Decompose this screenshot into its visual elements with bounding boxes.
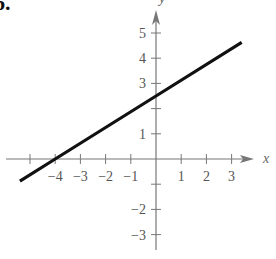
y-axis-label: y [157, 0, 166, 6]
y-tick-label: −2 [131, 202, 146, 217]
x-tick-label: 1 [178, 169, 185, 184]
x-tick-label: 3 [228, 169, 235, 184]
y-tick-label: 3 [139, 76, 146, 91]
y-tick-label: −3 [131, 228, 146, 243]
y-tick-label: 5 [139, 26, 146, 41]
y-tick-label: 1 [139, 127, 146, 142]
x-axis-label: x [262, 151, 270, 166]
x-tick-label: 2 [203, 169, 210, 184]
tick-labels: −4−3−2−11235431−2−3 [48, 26, 235, 243]
x-tick-label: −3 [73, 169, 88, 184]
x-tick-label: −4 [48, 169, 63, 184]
line-chart: xy −4−3−2−11235431−2−3 [0, 0, 276, 259]
x-tick-label: −1 [123, 169, 138, 184]
y-tick-label: 4 [139, 51, 146, 66]
x-tick-label: −2 [98, 169, 113, 184]
